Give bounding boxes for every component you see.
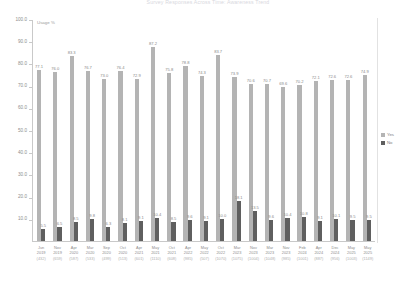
x-axis-label: Mar2020(533) [82,245,98,287]
x-axis-label-line: (499) [98,256,114,261]
x-axis-label: Feb2024(1001) [294,245,310,287]
bar-value-label: 9.1 [317,215,323,220]
bar-group[interactable]: 73.918.1 [228,20,244,241]
y-axis-tick-mark [29,87,32,88]
bar-value-label: 10.0 [218,213,226,218]
bar-no[interactable]: 9.1 [139,221,143,241]
bar-group[interactable]: 76.06.5 [49,20,65,241]
bar-group[interactable]: 83.38.5 [66,20,82,241]
bar-no[interactable]: 6.5 [57,227,61,241]
bar-no[interactable]: 9.1 [204,221,208,241]
x-axis-label: May2025(1149) [360,245,376,287]
bar-group[interactable]: 72.610.1 [326,20,342,241]
bar-group[interactable]: 75.88.5 [163,20,179,241]
bar-yes[interactable]: 73.0 [102,79,106,241]
y-axis-tick-label: 50.0 [18,128,27,133]
x-axis-label-line: (1004) [245,256,261,261]
bar-value-label: 9.6 [187,214,193,219]
bar-no[interactable]: 6.3 [106,227,110,241]
bar-value-label: 74.3 [198,70,206,75]
bar-value-label: 9.5 [366,214,372,219]
bar-group[interactable]: 70.613.5 [245,20,261,241]
bar-group[interactable]: 72.19.1 [310,20,326,241]
bar-group[interactable]: 70.79.6 [261,20,277,241]
legend-item-no[interactable]: No [381,140,394,145]
bar-group[interactable]: 87.210.4 [147,20,163,241]
bar-yes[interactable]: 77.1 [37,70,41,241]
bar-group[interactable]: 77.15.5 [33,20,49,241]
x-axis-labels: Jun2019(432)Nov2019(659)Apr2020(587)Mar2… [33,245,376,287]
bar-no[interactable]: 10.1 [334,219,338,241]
bar-value-label: 75.8 [165,67,173,72]
bar-group[interactable]: 70.210.8 [294,20,310,241]
bar-no[interactable]: 18.1 [237,201,241,241]
bar-group[interactable]: 78.89.6 [180,20,196,241]
legend-item-yes[interactable]: Yes [381,132,394,137]
bar-value-label: 9.8 [89,213,95,218]
x-axis-label-line: (513) [115,256,131,261]
y-axis-tick-label: 60.0 [18,105,27,110]
x-axis-label-line: (587) [66,256,82,261]
x-axis-label: Sep2020(499) [98,245,114,287]
bar-group[interactable]: 72.99.1 [131,20,147,241]
bar-group[interactable]: 83.710.0 [212,20,228,241]
x-axis-label: Mar2023(1048) [262,245,278,287]
bar-value-label: 76.7 [84,65,92,70]
bar-group[interactable]: 74.99.5 [359,20,375,241]
bar-value-label: 5.5 [40,223,46,228]
bar-yes[interactable]: 76.0 [53,72,57,241]
bar-yes[interactable]: 83.3 [70,56,74,241]
bar-value-label: 73.9 [230,71,238,76]
bar-value-label: 76.0 [51,66,59,71]
bar-value-label: 72.1 [312,75,320,80]
bar-no[interactable]: 5.5 [41,229,45,241]
bar-no[interactable]: 9.6 [269,220,273,241]
x-axis-label: Oct2021(608) [164,245,180,287]
bar-no[interactable]: 10.4 [155,218,159,241]
bar-value-label: 83.7 [214,49,222,54]
bar-no[interactable]: 9.1 [318,221,322,241]
x-axis-label-line: (956) [327,256,343,261]
bar-value-label: 87.2 [149,41,157,46]
x-axis-label-line: (887) [311,256,327,261]
bar-value-label: 13.5 [251,205,259,210]
x-axis-label: May2022(507) [196,245,212,287]
bar-no[interactable]: 8.1 [123,223,127,241]
x-axis-label-line: (1075) [229,256,245,261]
y-axis-tick-label: 20.0 [18,194,27,199]
legend-swatch-yes [381,133,385,137]
bar-value-label: 8.5 [73,216,79,221]
x-axis-label: Nov2023(985) [278,245,294,287]
bar-no[interactable]: 9.8 [90,219,94,241]
legend-label: Yes [387,132,394,137]
bar-value-label: 70.2 [296,79,304,84]
bar-no[interactable]: 8.5 [74,222,78,241]
x-axis-label-line: (659) [49,256,65,261]
bar-no[interactable]: 9.6 [188,220,192,241]
bar-no[interactable]: 10.0 [220,219,224,241]
bar-group[interactable]: 74.39.1 [196,20,212,241]
bar-group[interactable]: 76.79.8 [82,20,98,241]
bar-group[interactable]: 69.610.4 [277,20,293,241]
bar-value-label: 9.5 [350,214,356,219]
bar-group[interactable]: 72.69.5 [342,20,358,241]
x-axis-label-line: (1070) [213,256,229,261]
bar-no[interactable]: 10.8 [302,217,306,241]
x-axis-label-line: (1003) [343,256,359,261]
bar-group[interactable]: 76.48.1 [114,20,130,241]
bar-group[interactable]: 73.06.3 [98,20,114,241]
y-axis-tick-label: 40.0 [18,150,27,155]
x-axis-label-line: (985) [180,256,196,261]
bar-no[interactable]: 10.4 [285,218,289,241]
bar-no[interactable]: 13.5 [253,211,257,241]
bar-no[interactable]: 9.5 [367,220,371,241]
y-axis-tick-label: 10.0 [18,216,27,221]
y-axis-tick-mark [29,175,32,176]
plot-area: Usage % 100.090.080.070.060.050.040.030.… [32,20,375,242]
bar-no[interactable]: 8.5 [171,222,175,241]
bar-series-area: 77.15.576.06.583.38.576.79.873.06.376.48… [33,20,375,241]
bar-yes[interactable]: 76.4 [118,71,122,241]
x-axis-label-line: (1149) [360,256,376,261]
bar-no[interactable]: 9.5 [350,220,354,241]
bar-value-label: 9.1 [203,215,209,220]
